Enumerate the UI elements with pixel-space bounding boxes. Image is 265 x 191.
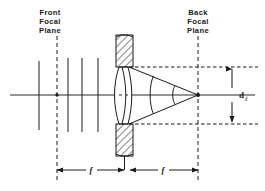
front-focal-plane-label-line2: Focal (39, 17, 61, 26)
front-focal-plane-label: Front Focal Plane (39, 8, 61, 35)
front-focal-plane-label-line3: Plane (39, 26, 61, 35)
optical-diagram-root: Front Focal Plane Back Focal Plane (0, 0, 265, 191)
back-focal-plane-label-line2: Focal (187, 17, 209, 26)
front-focal-point-marker (55, 93, 58, 96)
doublet-lens (115, 67, 132, 124)
beam-diameter-subscript: ℓ (244, 95, 248, 102)
back-focal-plane-label-line3: Plane (187, 26, 209, 35)
back-focal-plane-label-line1: Back (188, 8, 208, 17)
optical-ray-diagram-svg: Front Focal Plane Back Focal Plane (0, 0, 265, 191)
lens-mount-lower-body (116, 124, 133, 156)
lens-mount-upper (116, 35, 133, 67)
beam-diameter-symbol: d (239, 90, 244, 100)
lens-mount-upper-body (116, 35, 133, 67)
back-focal-point-marker (196, 93, 200, 97)
back-focal-plane-label: Back Focal Plane (187, 8, 209, 35)
front-focal-plane-label-line1: Front (39, 8, 60, 17)
